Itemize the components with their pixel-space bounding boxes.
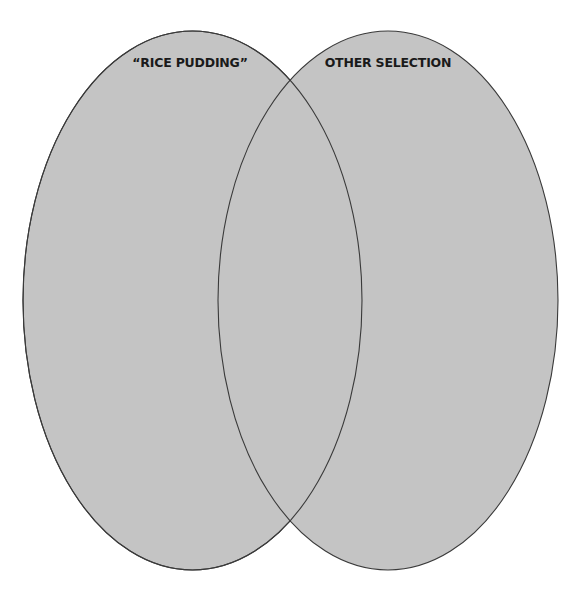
set-labels: “RICE PUDDING” OTHER SELECTION xyxy=(132,55,451,70)
set-shapes xyxy=(23,31,558,570)
set-left-label: “RICE PUDDING” xyxy=(132,55,247,70)
set-right-ellipse xyxy=(218,31,558,570)
set-right-label: OTHER SELECTION xyxy=(325,55,452,70)
venn-diagram: “RICE PUDDING” OTHER SELECTION xyxy=(0,0,582,595)
